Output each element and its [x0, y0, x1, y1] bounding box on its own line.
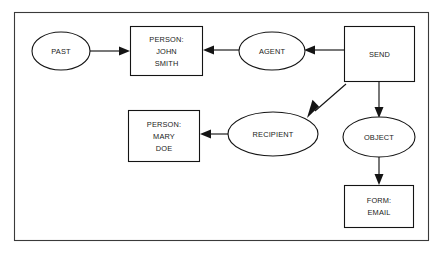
node-form-email-label-line1: FORM: — [367, 196, 392, 205]
node-past[interactable]: PAST — [32, 32, 90, 70]
node-person-john-smith[interactable]: PERSON: JOHN SMITH — [131, 27, 203, 76]
node-person-john-smith-label-line2: JOHN — [156, 47, 177, 56]
node-agent-label: AGENT — [259, 47, 286, 56]
node-send[interactable]: SEND — [345, 27, 415, 82]
node-recipient[interactable]: RECIPIENT — [228, 112, 318, 156]
node-person-john-smith-label-line1: PERSON: — [149, 35, 183, 44]
node-agent[interactable]: AGENT — [239, 32, 305, 70]
node-person-mary-doe-label-line3: DOE — [156, 144, 172, 153]
conceptual-graph-svg: PAST PERSON: JOHN SMITH AGENT SEND PERSO… — [0, 0, 442, 255]
node-send-label: SEND — [369, 50, 390, 59]
node-form-email[interactable]: FORM: EMAIL — [345, 186, 414, 228]
node-person-john-smith-label-line3: SMITH — [155, 59, 179, 68]
node-object[interactable]: OBJECT — [343, 117, 415, 157]
node-recipient-label: RECIPIENT — [253, 130, 294, 139]
node-object-label: OBJECT — [364, 133, 394, 142]
node-past-label: PAST — [51, 47, 71, 56]
node-person-mary-doe-label-line1: PERSON: — [147, 120, 181, 129]
node-person-mary-doe[interactable]: PERSON: MARY DOE — [129, 111, 200, 162]
diagram-canvas: PAST PERSON: JOHN SMITH AGENT SEND PERSO… — [0, 0, 442, 255]
node-form-email-label-line2: EMAIL — [368, 208, 391, 217]
node-person-mary-doe-label-line2: MARY — [153, 132, 175, 141]
